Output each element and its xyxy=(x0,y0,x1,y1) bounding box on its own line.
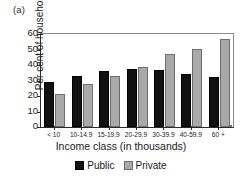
bar-public[interactable] xyxy=(181,74,191,127)
bar-private[interactable] xyxy=(138,67,148,127)
figure: (a) Per cent of households 0102030405060… xyxy=(0,0,242,177)
bar-public[interactable] xyxy=(72,76,82,127)
legend-swatch-public xyxy=(75,161,84,170)
y-axis-tick-label: 20 xyxy=(22,90,38,100)
y-axis-tick-mark xyxy=(37,81,41,82)
bar-private[interactable] xyxy=(192,49,202,127)
bar-group xyxy=(126,34,149,127)
bar-group xyxy=(71,34,94,127)
y-axis-tick-label: 50 xyxy=(22,44,38,54)
bar-public[interactable] xyxy=(44,82,54,127)
bar-group xyxy=(180,34,203,127)
plot-area xyxy=(40,33,234,128)
y-axis-tick-labels: 0102030405060 xyxy=(22,28,38,128)
bar-public[interactable] xyxy=(209,77,219,127)
y-axis-tick-label: 60 xyxy=(22,28,38,38)
bar-private[interactable] xyxy=(55,94,65,127)
x-axis-title: Income class (in thousands) xyxy=(0,140,242,153)
bar-public[interactable] xyxy=(154,70,164,127)
x-axis-tick-label: 60 + xyxy=(198,130,238,139)
bar-series-container xyxy=(41,34,233,127)
bar-private[interactable] xyxy=(83,84,93,127)
bar-private[interactable] xyxy=(165,54,175,127)
bar-public[interactable] xyxy=(127,69,137,127)
panel-label: (a) xyxy=(13,4,25,15)
y-axis-tick-mark xyxy=(37,112,41,113)
legend-entry-public[interactable]: Public xyxy=(75,160,114,171)
y-axis-tick-label: 40 xyxy=(22,59,38,69)
legend-label: Private xyxy=(136,160,167,171)
y-axis-tick-mark xyxy=(37,65,41,66)
legend-swatch-private xyxy=(124,161,133,170)
legend-entry-private[interactable]: Private xyxy=(124,160,167,171)
bar-group xyxy=(98,34,121,127)
bar-group xyxy=(153,34,176,127)
bar-public[interactable] xyxy=(99,71,109,127)
y-axis-tick-mark xyxy=(37,50,41,51)
y-axis-tick-mark xyxy=(37,34,41,35)
y-axis-tick-mark xyxy=(37,96,41,97)
bar-group xyxy=(43,34,66,127)
y-axis-tick-label: 30 xyxy=(22,75,38,85)
legend-label: Public xyxy=(87,160,114,171)
legend: PublicPrivate xyxy=(0,158,242,173)
bar-private[interactable] xyxy=(110,76,120,127)
y-axis-tick-label: 10 xyxy=(22,106,38,116)
bar-private[interactable] xyxy=(220,39,230,127)
bar-group xyxy=(208,34,231,127)
